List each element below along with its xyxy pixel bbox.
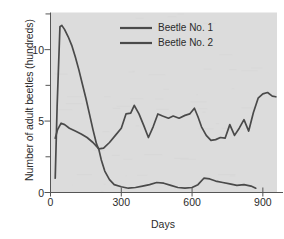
x-axis-title: Days [50,218,276,230]
y-axis-title: Number of adult beetles (hundreds) [23,5,35,195]
x-tick-label: 900 [254,196,272,208]
y-tick-label: 10 [24,44,44,56]
y-tick-label: 5 [24,115,44,127]
x-tick-label: 300 [113,196,131,208]
x-tick-label: 0 [48,196,54,208]
y-tick-label: 0 [24,187,44,199]
legend-label-1: Beetle No. 1 [158,22,213,33]
legend-label-2: Beetle No. 2 [158,37,213,48]
beetle-population-chart: Number of adult beetles (hundreds) Days … [0,0,284,239]
y-axis-ticks [45,14,51,193]
x-tick-label: 600 [183,196,201,208]
